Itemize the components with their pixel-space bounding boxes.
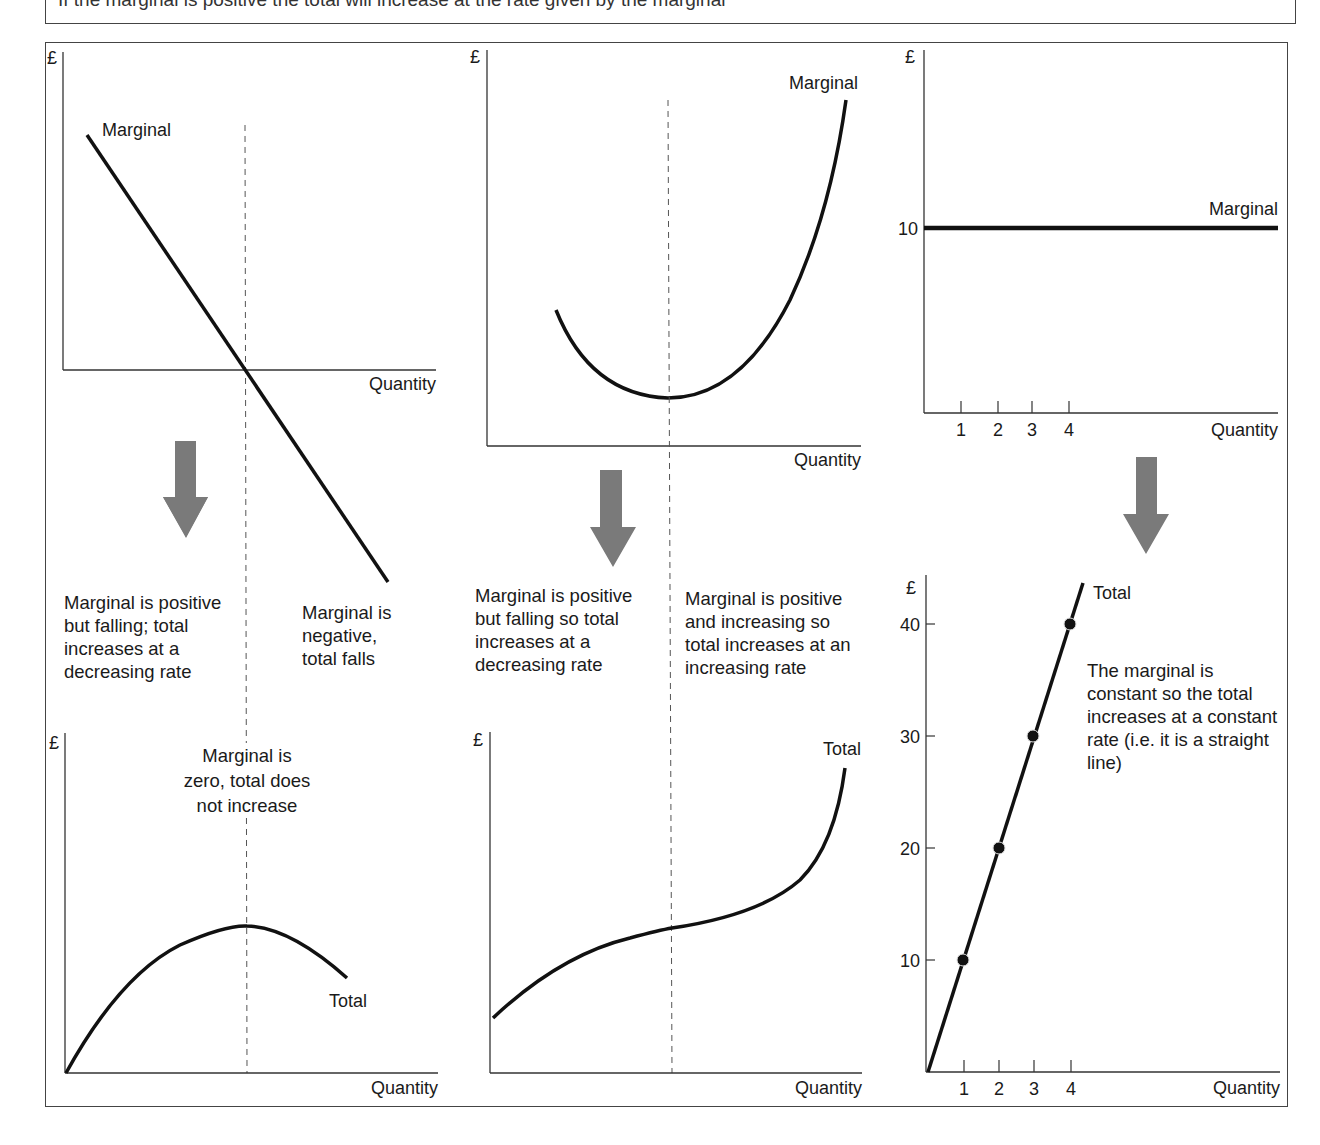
data-point (1064, 618, 1076, 630)
x-tick-label: 2 (993, 420, 1003, 440)
y-axis-label: £ (470, 47, 480, 67)
right-bottom-chart: £ 10 20 30 40 1 2 3 4 Quantity Total (900, 575, 1280, 1099)
curve-label: Total (1093, 583, 1131, 603)
note-marginal-zero: Marginal is zero, total does not increas… (183, 743, 311, 818)
x-tick-label: 4 (1066, 1079, 1076, 1099)
note-negative-left: Marginal is negative, total falls (302, 601, 412, 670)
data-point (993, 842, 1005, 854)
curve-label: Total (329, 991, 367, 1011)
x-axis-label: Quantity (1213, 1078, 1280, 1098)
middle-bottom-chart: £ Quantity Total (473, 730, 862, 1098)
y-axis-label: £ (906, 578, 916, 598)
x-tick-label: 3 (1029, 1079, 1039, 1099)
down-arrow-icon (590, 470, 636, 567)
x-tick-label: 4 (1064, 420, 1074, 440)
x-axis-label: Quantity (1211, 420, 1278, 440)
total-curve-middle (493, 768, 845, 1018)
marginal-curve-middle (556, 100, 846, 398)
left-top-chart: £ Quantity Marginal (47, 48, 436, 394)
y-tick-label: 10 (900, 951, 920, 971)
y-axis-label: £ (49, 733, 59, 753)
x-axis-label: Quantity (794, 450, 861, 470)
total-curve-left (66, 926, 347, 1073)
note-positive-falling-middle: Marginal is positive but falling so tota… (475, 584, 660, 676)
curve-label: Marginal (1209, 199, 1278, 219)
x-tick-label: 1 (959, 1079, 969, 1099)
x-axis-label: Quantity (795, 1078, 862, 1098)
data-point (957, 954, 969, 966)
x-tick-label: 2 (994, 1079, 1004, 1099)
y-tick-label: 30 (900, 727, 920, 747)
note-positive-falling-left: Marginal is positive but falling; total … (64, 591, 246, 683)
y-axis-label: £ (905, 47, 915, 67)
note-positive-increasing-middle: Marginal is positive and increasing so t… (685, 587, 870, 679)
right-top-chart: £ 10 Marginal 1 2 3 4 Quantity (898, 47, 1278, 440)
y-tick-label: 10 (898, 219, 918, 239)
y-tick-label: 40 (900, 615, 920, 635)
y-axis-label: £ (47, 48, 57, 68)
x-tick-label: 1 (956, 420, 966, 440)
x-tick-label: 3 (1027, 420, 1037, 440)
down-arrow-icon (1123, 457, 1169, 554)
note-constant-marginal: The marginal is constant so the total in… (1087, 659, 1282, 774)
marginal-curve-left (87, 135, 388, 582)
middle-top-chart: £ Quantity Marginal (470, 47, 861, 470)
curve-label: Marginal (789, 73, 858, 93)
marginal-total-diagram: £ Quantity Marginal £ Quantity Total £ Q… (0, 0, 1320, 1145)
down-arrow-icon-fill (163, 441, 208, 538)
curve-label: Marginal (102, 120, 171, 140)
x-axis-label: Quantity (371, 1078, 438, 1098)
y-axis-label: £ (473, 730, 483, 750)
x-axis-label: Quantity (369, 374, 436, 394)
data-point (1027, 730, 1039, 742)
curve-label: Total (823, 739, 861, 759)
y-tick-label: 20 (900, 839, 920, 859)
total-curve-right (928, 583, 1083, 1072)
